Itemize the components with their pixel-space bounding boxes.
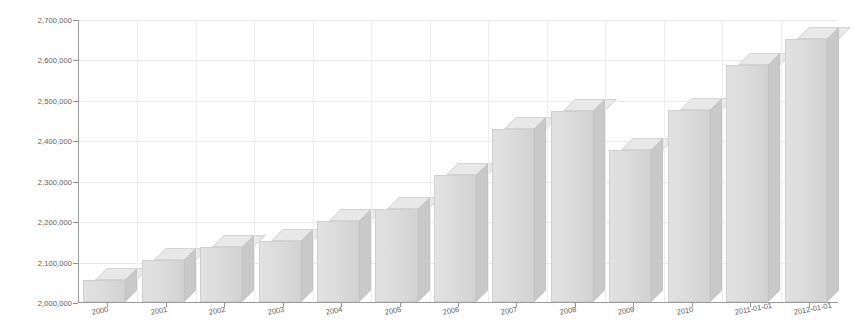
x-axis-tick-label: 2011-01-01 [734, 301, 773, 317]
bar-side-face [242, 235, 254, 302]
x-axis-tick-label: 2008 [559, 305, 577, 317]
gridline-vertical [722, 20, 723, 302]
gridline-vertical [137, 20, 138, 302]
bar-side-face [710, 98, 722, 302]
gridline-vertical [430, 20, 431, 302]
x-axis-tick-label: 2010 [676, 305, 694, 317]
gridline-horizontal [79, 20, 838, 21]
bar[interactable] [726, 53, 780, 302]
y-axis-tick-mark [73, 263, 78, 264]
x-axis-tick-label: 2001 [150, 305, 168, 317]
bar-front-face [375, 209, 417, 302]
y-axis-tick-label: 2,200,000 [38, 218, 72, 227]
bar-side-face [593, 99, 605, 302]
y-axis-tick-mark [73, 222, 78, 223]
x-axis-tick-label: 2007 [500, 305, 518, 317]
gridline-vertical [196, 20, 197, 302]
bar-front-face [317, 221, 359, 302]
x-axis-tick-label: 2005 [384, 305, 402, 317]
x-axis-tick-label: 2000 [91, 305, 109, 317]
bar-top-face [797, 27, 851, 39]
bar-front-face [200, 247, 242, 302]
bar-side-face [651, 138, 663, 302]
gridline-horizontal [79, 60, 838, 61]
bar-front-face [668, 110, 710, 302]
gridline-vertical [547, 20, 548, 302]
gridline-vertical [781, 20, 782, 302]
bar[interactable] [609, 138, 663, 302]
bar-side-face [768, 53, 780, 302]
bar-chart: 2,000,0002,100,0002,200,0002,300,0002,40… [0, 0, 856, 335]
bar-side-face [827, 27, 839, 302]
y-axis: 2,000,0002,100,0002,200,0002,300,0002,40… [0, 0, 72, 335]
gridline-vertical [664, 20, 665, 302]
y-axis-tick-mark [73, 182, 78, 183]
bar[interactable] [492, 117, 546, 302]
bar[interactable] [317, 209, 371, 302]
bar-side-face [534, 117, 546, 302]
x-axis-tick-label: 2003 [267, 305, 285, 317]
y-axis-tick-mark [73, 303, 78, 304]
y-axis-tick-label: 2,700,000 [38, 16, 72, 25]
bar-side-face [359, 209, 371, 302]
gridline-vertical [313, 20, 314, 302]
y-axis-tick-label: 2,300,000 [38, 177, 72, 186]
bar[interactable] [83, 268, 137, 302]
y-axis-tick-mark [73, 60, 78, 61]
bar[interactable] [434, 163, 488, 302]
bar[interactable] [668, 98, 722, 302]
bar[interactable] [200, 235, 254, 302]
gridline-vertical [605, 20, 606, 302]
bar-front-face [551, 111, 593, 302]
bar-side-face [418, 197, 430, 302]
bar[interactable] [785, 27, 839, 302]
y-axis-tick-mark [73, 141, 78, 142]
y-axis-tick-label: 2,100,000 [38, 258, 72, 267]
bar-front-face [609, 150, 651, 302]
gridline-vertical [371, 20, 372, 302]
y-axis-tick-mark [73, 20, 78, 21]
bar-front-face [142, 260, 184, 302]
bar-front-face [785, 39, 827, 302]
x-axis-tick-label: 2004 [325, 305, 343, 317]
bar[interactable] [259, 229, 313, 302]
x-axis-tick-label: 2006 [442, 305, 460, 317]
bar[interactable] [142, 248, 196, 302]
y-axis-tick-label: 2,000,000 [38, 299, 72, 308]
gridline-horizontal [79, 141, 838, 142]
gridline-vertical [254, 20, 255, 302]
bar-front-face [726, 65, 768, 302]
bar[interactable] [375, 197, 429, 302]
bar-front-face [492, 129, 534, 302]
bar-top-face [563, 99, 617, 111]
y-axis-tick-mark [73, 101, 78, 102]
bar[interactable] [551, 99, 605, 302]
y-axis-tick-label: 2,600,000 [38, 56, 72, 65]
bar-front-face [83, 280, 125, 302]
x-axis-tick-label: 2012-01-01 [793, 301, 832, 317]
plot-area [78, 20, 838, 303]
y-axis-tick-label: 2,500,000 [38, 96, 72, 105]
bar-side-face [476, 163, 488, 302]
bar-side-face [301, 229, 313, 302]
bar-front-face [259, 241, 301, 302]
gridline-vertical [488, 20, 489, 302]
bar-front-face [434, 175, 476, 302]
x-axis-tick-label: 2009 [617, 305, 635, 317]
y-axis-tick-label: 2,400,000 [38, 137, 72, 146]
x-axis-tick-label: 2002 [208, 305, 226, 317]
